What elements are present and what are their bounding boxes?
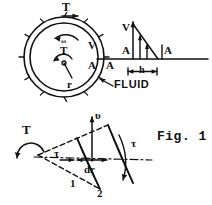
- profile-baseline-area-label: A: [106, 60, 114, 71]
- dr-label: dr: [84, 164, 95, 175]
- wedge-torque-label: T: [22, 123, 31, 136]
- wedge-velocity-label: υ: [95, 110, 101, 121]
- gap-label-h: h: [139, 65, 145, 75]
- outer-wall-hatching: [19, 13, 109, 102]
- profile-velocity-label: V: [122, 22, 130, 33]
- shear-right-arrow: [119, 135, 127, 180]
- profile-area-left-label: A: [122, 45, 130, 56]
- outer-cylinder-circle: [24, 17, 104, 97]
- wall-velocity-label: V: [88, 40, 96, 51]
- shear-right-label: τ: [131, 138, 136, 149]
- angular-velocity-arrow: [55, 35, 78, 42]
- wedge-arc-surface-2: [108, 125, 133, 183]
- profile-area-right-label: A: [164, 45, 172, 56]
- torque-center-label: T: [60, 45, 67, 56]
- radius-label: r: [67, 79, 72, 90]
- torque-top-label: T: [62, 1, 70, 13]
- fluid-leader-line: [100, 79, 113, 86]
- wall-area-label: A: [88, 60, 96, 71]
- figure-1-diagram: T ω T r V A FLUID V A A A h T υ τ τ dr 1…: [0, 0, 212, 205]
- shear-left-label: τ: [54, 148, 59, 159]
- wedge-center-dot: [91, 159, 94, 162]
- surface-1-label: 1: [70, 178, 76, 189]
- figure-vector-canvas: [0, 0, 212, 205]
- figure-caption: Fig. 1: [157, 130, 207, 143]
- wedge-velocity-arrow: [90, 116, 95, 158]
- inner-cylinder-circle: [30, 23, 98, 91]
- radius-line: [64, 63, 72, 78]
- surface-2-label: 2: [97, 188, 103, 199]
- fluid-label: FLUID: [114, 79, 149, 90]
- profile-slope-line: [133, 24, 158, 59]
